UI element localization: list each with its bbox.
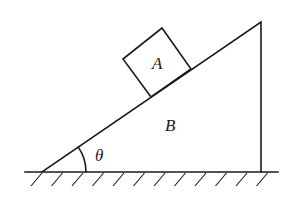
hatch-mark (257, 173, 268, 186)
hatch-mark (52, 173, 63, 186)
angle-arc (78, 147, 86, 172)
hatch-mark (154, 173, 165, 186)
hatch-mark (93, 173, 104, 186)
angle-theta-label: θ (95, 146, 103, 165)
hatch-mark (236, 173, 247, 186)
ground-hatching (31, 173, 268, 186)
hatch-mark (195, 173, 206, 186)
hatch-mark (216, 173, 227, 186)
block-a-label: A (151, 54, 163, 73)
hatch-mark (175, 173, 186, 186)
hatch-mark (31, 173, 42, 186)
wedge-b-label: B (165, 116, 176, 135)
hatch-mark (72, 173, 83, 186)
hatch-mark (134, 173, 145, 186)
incline-diagram: A B θ (0, 0, 287, 214)
hatch-mark (113, 173, 124, 186)
